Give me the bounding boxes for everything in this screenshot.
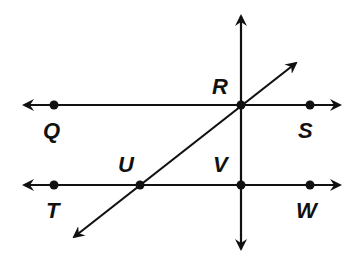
label-u: U [118, 152, 135, 177]
point-t [50, 181, 59, 190]
point-r [237, 101, 246, 110]
point-q [50, 101, 59, 110]
line-ur [74, 63, 296, 237]
point-v [237, 181, 246, 190]
label-v: V [213, 152, 230, 177]
geometry-diagram: R Q S U V T W [0, 0, 362, 256]
point-s [306, 101, 315, 110]
label-q: Q [43, 118, 60, 143]
point-u [136, 181, 145, 190]
point-w [306, 181, 315, 190]
label-t: T [46, 198, 61, 223]
label-r: R [212, 74, 228, 99]
label-w: W [296, 198, 319, 223]
label-s: S [298, 118, 313, 143]
